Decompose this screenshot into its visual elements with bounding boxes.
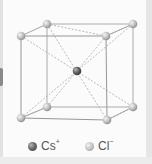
legend: Cs+ Cl− (0, 137, 152, 155)
cl-ion (129, 103, 138, 112)
cl-ion (103, 116, 112, 125)
legend-label-cl: Cl− (98, 139, 113, 153)
light-gray-sphere-icon (85, 142, 94, 151)
cl-ion (17, 32, 26, 41)
cl-ion (17, 114, 26, 123)
dark-gray-sphere-icon (28, 142, 37, 151)
cl-ion (102, 32, 111, 41)
cl-ion (43, 20, 52, 29)
legend-item-cs: Cs+ (28, 137, 60, 155)
cs-ion-center (73, 67, 82, 76)
cl-ion (129, 20, 138, 29)
cl-ion (43, 103, 52, 112)
legend-item-cl: Cl− (85, 137, 113, 155)
legend-label-cs: Cs+ (41, 139, 60, 153)
